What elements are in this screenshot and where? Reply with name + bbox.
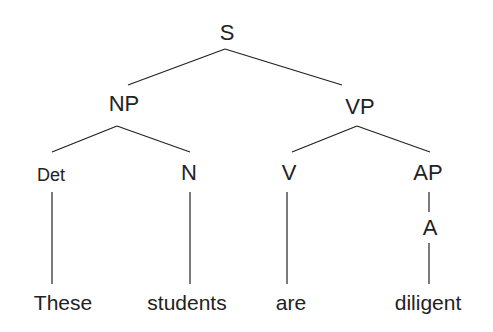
node-det: Det <box>37 166 65 184</box>
word-these: These <box>34 292 92 313</box>
edge-s-vp <box>225 49 342 85</box>
node-np: NP <box>109 93 140 115</box>
node-vp: VP <box>345 96 374 118</box>
edge-np-n <box>117 126 190 152</box>
edge-vp-v <box>292 126 357 152</box>
word-diligent: diligent <box>395 292 462 313</box>
node-s: S <box>220 22 235 44</box>
node-ap: AP <box>413 162 442 184</box>
word-students: students <box>147 292 226 313</box>
edge-vp-ap <box>357 126 430 152</box>
node-a: A <box>423 217 438 239</box>
word-are: are <box>276 292 306 313</box>
edge-s-np <box>128 49 225 85</box>
edge-np-det <box>52 126 117 152</box>
node-n: N <box>181 162 197 184</box>
node-v: V <box>282 162 297 184</box>
